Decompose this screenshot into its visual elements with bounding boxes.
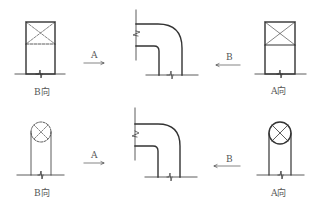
row2-arrow-b-label: B bbox=[226, 154, 233, 164]
row2-left-view-round-hidden bbox=[17, 122, 64, 179]
row1-elbow bbox=[133, 10, 198, 79]
row1-arrow-b-label: B bbox=[226, 52, 233, 62]
row2-left-view-label: B向 bbox=[34, 186, 50, 199]
row2-right-view-label: A向 bbox=[271, 186, 287, 199]
row1-left-view-rect-hidden bbox=[15, 22, 65, 78]
duct-elbow-diagram bbox=[0, 0, 318, 204]
row1-arrow-a-label: A bbox=[91, 50, 98, 60]
row1-left-view-label: B向 bbox=[34, 85, 50, 98]
row1-right-view-label: A向 bbox=[271, 84, 287, 97]
row2-arrow-a-label: A bbox=[91, 150, 98, 160]
row2-elbow bbox=[132, 108, 197, 181]
row1-right-view-rect bbox=[255, 22, 306, 78]
row2-right-view-round bbox=[257, 122, 304, 179]
